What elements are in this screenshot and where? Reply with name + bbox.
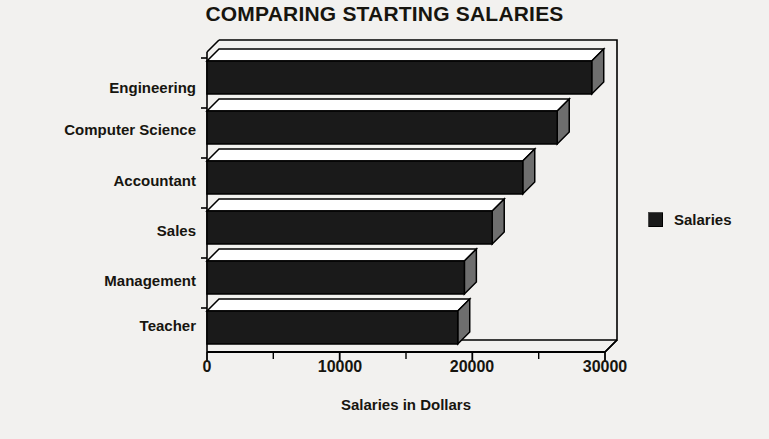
legend: Salaries [648, 211, 732, 228]
x-tick-label-20000: 20000 [450, 358, 495, 376]
bar-engineering[interactable] [207, 49, 604, 94]
x-tick-label-0: 0 [203, 358, 212, 376]
y-axis-label-management: Management [104, 273, 196, 289]
y-axis-label-accountant: Accountant [114, 173, 197, 189]
bar-teacher[interactable] [207, 299, 470, 344]
bar-management[interactable] [207, 249, 476, 294]
x-axis-title: Salaries in Dollars [207, 396, 605, 413]
y-axis-ticks [201, 58, 207, 308]
legend-swatch-icon [648, 212, 663, 227]
y-axis-label-teacher: Teacher [140, 318, 196, 334]
x-tick-label-10000: 10000 [318, 358, 363, 376]
y-axis-label-sales: Sales [157, 223, 196, 239]
x-tick-label-30000: 30000 [583, 358, 628, 376]
bar-sales[interactable] [207, 199, 504, 244]
bar-computer-science[interactable] [207, 99, 569, 144]
y-axis-label-computer-science: Computer Science [64, 122, 196, 138]
chart-canvas: COMPARING STARTING SALARIES [0, 0, 769, 439]
y-axis-label-engineering: Engineering [109, 80, 196, 96]
legend-label-salaries: Salaries [674, 211, 732, 228]
bar-accountant[interactable] [207, 149, 535, 194]
x-axis [207, 352, 605, 362]
